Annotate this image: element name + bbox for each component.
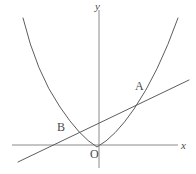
x-axis-label: x xyxy=(181,140,186,151)
y-axis-label: y xyxy=(95,1,100,12)
parabola-curve xyxy=(23,18,178,147)
point-b-label: B xyxy=(57,121,65,133)
secant-line xyxy=(18,80,189,162)
origin-label: O xyxy=(90,148,99,160)
point-a-label: A xyxy=(135,80,144,92)
figure-canvas: y x O A B xyxy=(0,0,196,174)
